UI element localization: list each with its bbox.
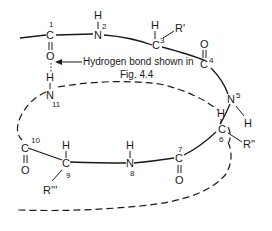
backbone-front-5 bbox=[211, 68, 228, 94]
backbone-front-8 bbox=[134, 158, 174, 163]
backbone-back-lower bbox=[18, 142, 231, 211]
backbone-back-upper bbox=[58, 82, 218, 110]
atom-n2: N bbox=[94, 29, 102, 41]
bond-c3-r bbox=[163, 31, 174, 38]
atom-o4: O bbox=[200, 38, 209, 50]
atom-r9: R''' bbox=[43, 184, 57, 196]
backbone-front-9 bbox=[70, 162, 126, 163]
atom-c10-number: 10 bbox=[31, 136, 40, 145]
atom-c3: C bbox=[152, 39, 160, 51]
atom-h5: H bbox=[244, 117, 252, 129]
backbone-front-1 bbox=[20, 35, 46, 38]
atom-c1-number: 1 bbox=[49, 20, 54, 29]
alpha-helix-diagram: C 1 O H N 11 Hydrogen bond shown in Fig.… bbox=[0, 0, 272, 231]
bond-n5-h5 bbox=[236, 106, 244, 116]
atom-c10: C bbox=[21, 142, 29, 154]
atom-n11-number: 11 bbox=[52, 100, 61, 109]
atom-h11: H bbox=[46, 71, 54, 83]
atom-h9: H bbox=[62, 139, 70, 151]
atom-h6: H bbox=[217, 107, 225, 119]
atom-n2-number: 2 bbox=[102, 22, 107, 31]
backbone-front-10 bbox=[28, 148, 62, 160]
atom-c9: C bbox=[62, 157, 70, 169]
backbone-back-left bbox=[17, 92, 46, 140]
atom-c4: C bbox=[200, 58, 208, 70]
bond-c6-r bbox=[228, 133, 242, 142]
atom-n5: N bbox=[227, 93, 235, 105]
atom-c1: C bbox=[46, 29, 54, 41]
atom-h2: H bbox=[94, 9, 102, 21]
atom-h8: H bbox=[126, 139, 134, 151]
backbone-front-3 bbox=[104, 35, 152, 45]
annotation-arrow-head-icon bbox=[55, 59, 62, 65]
atom-n8-number: 8 bbox=[130, 169, 135, 178]
atom-c4-number: 4 bbox=[209, 56, 214, 65]
atom-c6-number: 6 bbox=[219, 135, 224, 144]
backbone-front-2 bbox=[56, 34, 93, 35]
atom-o10: O bbox=[21, 164, 30, 176]
atom-n5-number: 5 bbox=[236, 91, 241, 100]
annotation-line-2: Fig. 4.4 bbox=[120, 69, 154, 80]
atom-o7: O bbox=[175, 174, 184, 186]
atom-n8: N bbox=[126, 157, 134, 169]
annotation-line-1: Hydrogen bond shown in bbox=[83, 56, 194, 67]
atom-h3: H bbox=[151, 19, 159, 31]
atom-c9-number: 9 bbox=[66, 171, 71, 180]
atom-r3: R' bbox=[175, 22, 185, 34]
atom-c6: C bbox=[218, 123, 226, 135]
atom-c7-number: 7 bbox=[178, 145, 183, 154]
bond-c9-r bbox=[52, 170, 62, 181]
atom-o1: O bbox=[46, 50, 55, 62]
backbone-front-7 bbox=[184, 132, 216, 155]
atom-r6: R'' bbox=[243, 138, 255, 150]
